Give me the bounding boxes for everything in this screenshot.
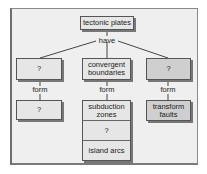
result-unknown: ? bbox=[83, 121, 130, 141]
branch-right-label: ? bbox=[166, 65, 170, 73]
link-form-right: form bbox=[156, 86, 180, 94]
result-subduction-zones: subduction zones bbox=[83, 101, 130, 121]
result-left-label: ? bbox=[37, 106, 41, 114]
root-label: tectonic plates bbox=[83, 19, 131, 27]
result-transform-faults: transform faults bbox=[149, 103, 189, 119]
branch-box-right: ? bbox=[146, 58, 191, 80]
branch-left-label: ? bbox=[37, 65, 41, 73]
result-box-right: transform faults bbox=[146, 100, 191, 121]
result-stack-center: subduction zones ? island arcs bbox=[82, 100, 131, 161]
branch-box-left: ? bbox=[16, 58, 62, 80]
root-box-tectonic-plates: tectonic plates bbox=[80, 16, 134, 30]
result-box-left: ? bbox=[16, 100, 62, 120]
branch-box-center: convergent boundaries bbox=[82, 58, 131, 80]
link-form-center: form bbox=[95, 86, 119, 94]
result-island-arcs: island arcs bbox=[83, 141, 130, 161]
link-form-left: form bbox=[28, 86, 52, 94]
branch-center-label: convergent boundaries bbox=[84, 61, 130, 77]
link-have: have bbox=[94, 37, 120, 45]
